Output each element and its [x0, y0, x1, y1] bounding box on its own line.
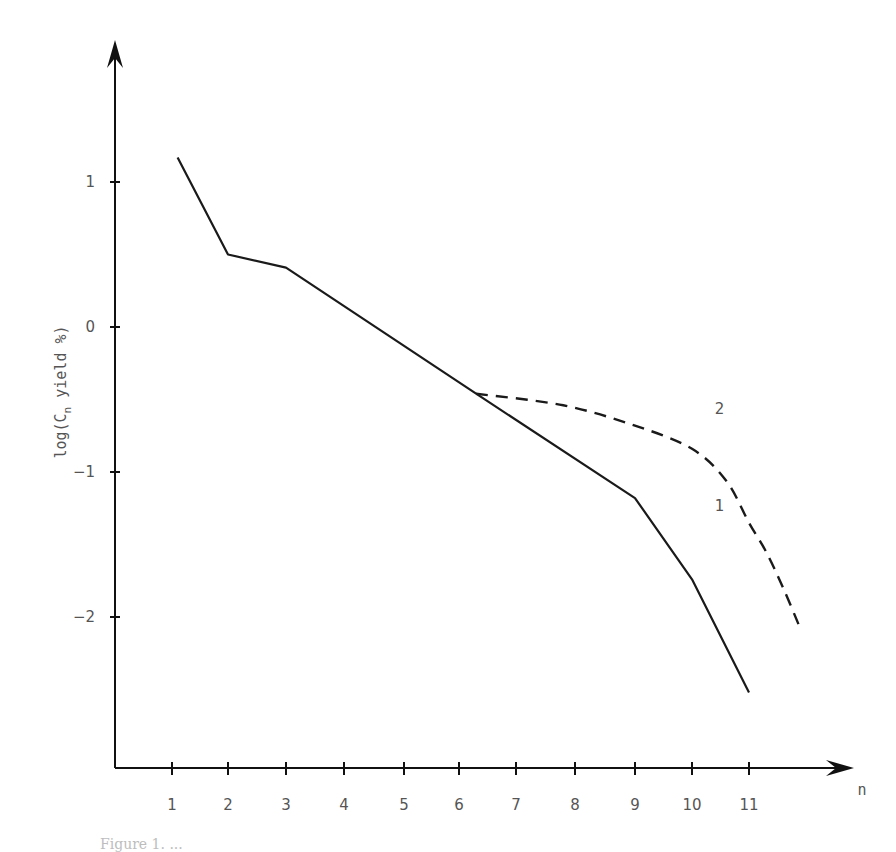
series-2-label: 2	[715, 400, 725, 418]
series-2-dashed-line	[476, 394, 800, 629]
x-tick-label: 10	[682, 796, 701, 814]
y-tick-label: −1	[73, 463, 95, 481]
y-axis	[107, 40, 123, 768]
series-1-label: 1	[715, 497, 725, 515]
x-tick-label: 5	[399, 796, 409, 814]
x-tick-label: 11	[739, 796, 758, 814]
y-tick-label: −2	[73, 608, 95, 626]
x-ticks: 1234567891011	[167, 762, 758, 814]
figure-caption: Figure 1. ...	[100, 836, 183, 852]
x-tick-label: 4	[339, 796, 349, 814]
x-tick-label: 3	[281, 796, 291, 814]
y-ticks: 10−1−2	[73, 173, 120, 626]
series-1-solid-line	[178, 157, 749, 692]
x-tick-label: 2	[223, 796, 233, 814]
y-tick-label: 1	[85, 173, 95, 191]
y-tick-label: 0	[85, 318, 95, 336]
x-tick-label: 1	[167, 796, 177, 814]
y-axis-label: log(Cn yield %)	[52, 325, 74, 458]
x-tick-label: 9	[630, 796, 640, 814]
x-tick-label: 6	[454, 796, 464, 814]
x-axis	[115, 760, 854, 776]
x-axis-label: n	[857, 781, 866, 799]
x-tick-label: 8	[570, 796, 580, 814]
x-tick-label: 7	[511, 796, 521, 814]
